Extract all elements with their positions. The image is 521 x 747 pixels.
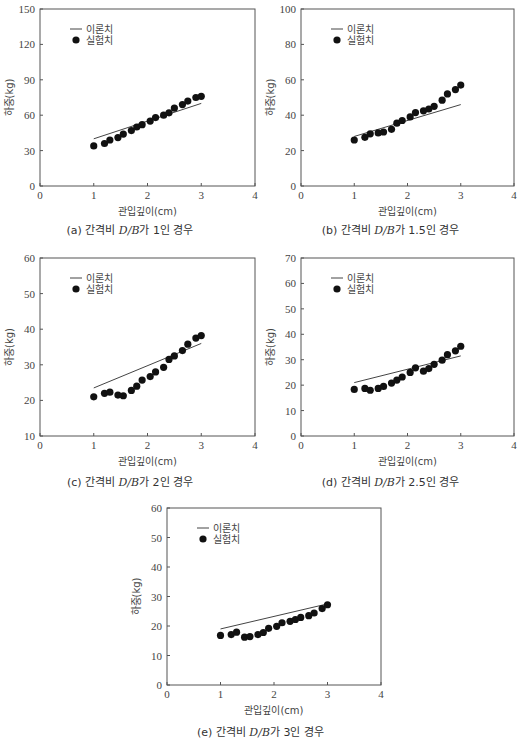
legend-experiment-label: 실험치 <box>213 534 240 545</box>
y-tick-label: 150 <box>19 3 36 15</box>
y-tick-label: 60 <box>285 74 297 86</box>
y-tick-label: 40 <box>151 561 163 573</box>
chart-e-caption: (e) 간격비 D/B가 3인 경우 <box>130 723 391 739</box>
x-axis-label: 관입깊이(cm) <box>378 205 437 217</box>
legend-dot-icon <box>333 36 340 43</box>
y-tick-label: 90 <box>24 74 36 86</box>
y-tick-label: 30 <box>24 359 36 371</box>
x-tick-label: 3 <box>458 439 464 451</box>
x-tick-label: 1 <box>218 688 224 700</box>
chart-a-plot: 012340306090120150관입깊이(cm)하중(kg)이론치실험치 <box>0 0 260 220</box>
experiment-point <box>278 619 285 626</box>
experiment-point <box>444 351 451 358</box>
experiment-point <box>412 364 419 371</box>
experiment-point <box>90 142 97 149</box>
experiment-point <box>367 130 374 137</box>
experiment-point <box>399 117 406 124</box>
experiment-point <box>152 368 159 375</box>
experiment-point <box>444 90 451 97</box>
x-tick-label: 1 <box>91 439 97 451</box>
x-tick-label: 4 <box>252 439 258 451</box>
y-tick-label: 120 <box>19 38 36 50</box>
x-tick-label: 1 <box>91 189 97 201</box>
experiment-point <box>198 332 205 339</box>
legend-theory-label: 이론치 <box>86 273 113 284</box>
experiment-point <box>133 383 140 390</box>
y-tick-label: 10 <box>24 430 36 442</box>
legend-dot-icon <box>72 285 79 292</box>
y-tick-label: 30 <box>151 591 163 603</box>
x-axis-label: 관입깊이(cm) <box>244 704 303 716</box>
y-tick-label: 10 <box>285 405 297 417</box>
y-tick-label: 50 <box>151 532 163 544</box>
chart-c-caption: (c) 간격비 D/B가 2인 경우 <box>0 473 260 489</box>
x-tick-label: 3 <box>199 189 205 201</box>
y-tick-label: 40 <box>24 323 36 335</box>
x-tick-label: 2 <box>271 688 277 700</box>
x-tick-label: 0 <box>298 439 304 451</box>
plot-frame <box>301 9 514 186</box>
experiment-point <box>171 352 178 359</box>
y-tick-label: 20 <box>285 145 297 157</box>
experiment-point <box>90 393 97 400</box>
experiment-point <box>457 343 464 350</box>
x-tick-label: 4 <box>511 439 517 451</box>
x-tick-label: 3 <box>325 688 331 700</box>
x-tick-label: 2 <box>405 439 411 451</box>
experiment-point <box>152 114 159 121</box>
x-tick-label: 0 <box>298 189 304 201</box>
experiment-point <box>439 97 446 104</box>
experiment-point <box>265 625 272 632</box>
legend-dot-icon <box>333 285 340 292</box>
y-tick-label: 60 <box>24 252 36 264</box>
plot-frame <box>40 258 255 436</box>
chart-panel-d: 01234010203040506070관입깊이(cm)하중(kg)이론치실험치… <box>260 245 521 495</box>
y-tick-label: 30 <box>285 354 297 366</box>
legend-dot-icon <box>199 535 206 542</box>
x-axis-label: 관입깊이(cm) <box>118 455 177 467</box>
experiment-point <box>311 609 318 616</box>
experiment-point <box>439 357 446 364</box>
experiment-point <box>217 632 224 639</box>
x-tick-label: 0 <box>37 439 43 451</box>
experiment-point <box>171 105 178 112</box>
y-tick-label: 20 <box>285 379 297 391</box>
chart-panel-a: 012340306090120150관입깊이(cm)하중(kg)이론치실험치 (… <box>0 0 260 245</box>
legend-theory-label: 이론치 <box>213 523 240 534</box>
x-tick-label: 1 <box>352 189 358 201</box>
chart-e-plot: 012340102030405060관입깊이(cm)하중(kg)이론치실험치 <box>130 495 391 720</box>
experiment-point <box>160 364 167 371</box>
plot-frame <box>167 508 381 685</box>
y-axis-label: 하중(kg) <box>264 78 276 116</box>
experiment-point <box>120 392 127 399</box>
chart-c-plot: 01234102030405060관입깊이(cm)하중(kg)이론치실험치 <box>0 245 260 470</box>
experiment-point <box>246 633 253 640</box>
experiment-point <box>457 82 464 89</box>
experiment-point <box>431 103 438 110</box>
experiment-point <box>106 389 113 396</box>
experiment-point <box>431 361 438 368</box>
experiment-point <box>412 109 419 116</box>
legend-theory-label: 이론치 <box>347 273 374 284</box>
y-tick-label: 60 <box>285 277 297 289</box>
chart-b-caption: (b) 간격비 D/B가 1.5인 경우 <box>260 221 521 237</box>
y-tick-label: 40 <box>285 109 297 121</box>
experiment-point <box>179 347 186 354</box>
x-tick-label: 0 <box>37 189 43 201</box>
y-tick-label: 50 <box>24 288 36 300</box>
x-tick-label: 0 <box>164 688 170 700</box>
y-tick-label: 30 <box>24 145 36 157</box>
y-tick-label: 100 <box>280 3 297 15</box>
experiment-point <box>184 97 191 104</box>
chart-a-caption: (a) 간격비 D/B가 1인 경우 <box>0 221 260 237</box>
experiment-point <box>351 386 358 393</box>
plot-frame <box>40 9 255 186</box>
legend-experiment-label: 실험치 <box>347 284 374 295</box>
y-axis-label: 하중(kg) <box>3 78 15 116</box>
x-tick-label: 4 <box>378 688 384 700</box>
experiment-point <box>380 383 387 390</box>
experiment-point <box>324 601 331 608</box>
experiment-point <box>198 93 205 100</box>
experiment-point <box>139 121 146 128</box>
experiment-point <box>233 629 240 636</box>
